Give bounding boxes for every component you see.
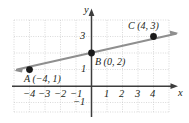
point-b-label: B (0, 2) <box>95 57 125 67</box>
x-tick-label--3: −3 <box>38 89 50 100</box>
x-tick-label-3: 3 <box>135 89 140 100</box>
point-c-label: C (4, 3) <box>128 21 159 31</box>
point-b-marker <box>88 50 95 57</box>
x-tick-label-4: 4 <box>150 89 155 100</box>
y-axis <box>89 9 95 118</box>
coordinate-plane-figure: x y −4 −3 −2 −1 1 2 3 4 3 1 −1 A (−4, 1)… <box>0 0 189 123</box>
y-axis-label: y <box>84 5 89 16</box>
x-tick-label--4: −4 <box>23 89 35 100</box>
y-tick-label-1: 1 <box>81 64 86 75</box>
x-tick-label-1: 1 <box>104 89 109 100</box>
y-tick-label--1: −1 <box>73 97 85 108</box>
y-tick-label-3: 3 <box>80 31 85 42</box>
point-a-marker <box>26 66 33 73</box>
point-a-label: A (−4, 1) <box>24 74 61 84</box>
x-tick-label--2: −2 <box>54 89 66 100</box>
point-c-marker <box>150 33 157 40</box>
x-axis-label: x <box>178 88 183 99</box>
x-tick-label-2: 2 <box>119 89 124 100</box>
